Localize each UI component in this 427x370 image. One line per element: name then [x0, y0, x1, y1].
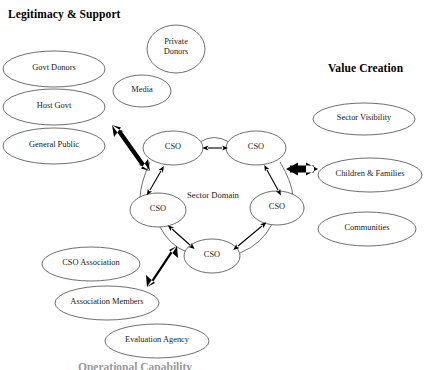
arrow-cso-top-left-to-left — [150, 171, 161, 190]
label-cso-left: CSO — [138, 204, 178, 213]
arrow-cso-left-to-bottom — [172, 229, 190, 245]
ellipse-cso-association[interactable] — [42, 247, 140, 281]
ellipse-host-govt[interactable] — [3, 89, 105, 125]
arrow-cso-right-to-bottom — [238, 226, 262, 246]
ellipse-communities[interactable] — [318, 212, 416, 246]
thick-arrow-value-creation — [286, 163, 318, 176]
ellipse-general-public[interactable] — [3, 128, 105, 164]
ellipse-sector-visibility[interactable] — [313, 103, 415, 135]
ring-curve-top — [200, 138, 229, 143]
label-cso-right: CSO — [257, 202, 297, 211]
label-cso-top-right: CSO — [236, 142, 276, 151]
arrow-cso-top-right-to-right — [267, 170, 278, 190]
header-value-creation: Value Creation — [328, 62, 403, 74]
ellipse-media[interactable] — [113, 75, 171, 107]
header-operational-capability: Operational Capability — [78, 361, 192, 370]
ellipse-private-donors[interactable] — [147, 25, 205, 73]
ellipse-govt-donors[interactable] — [3, 51, 105, 87]
ellipse-association-members[interactable] — [55, 286, 159, 320]
diagram-canvas: Legitimacy & Support Value Creation Oper… — [0, 0, 427, 370]
header-legitimacy-support: Legitimacy & Support — [8, 8, 121, 20]
label-cso-top-left: CSO — [153, 142, 193, 151]
label-sector-domain: Sector Domain — [173, 190, 253, 200]
thick-arrow-operational — [146, 246, 178, 287]
ring-curve-lower-right — [240, 224, 272, 253]
ellipse-children-families[interactable] — [318, 158, 422, 192]
label-cso-bottom: CSO — [192, 250, 232, 259]
diagram-svg-layer — [0, 0, 427, 370]
ellipse-evaluation-agency[interactable] — [105, 324, 209, 358]
